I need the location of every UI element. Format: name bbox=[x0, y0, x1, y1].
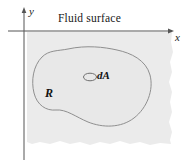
y-axis-arrowhead bbox=[22, 7, 27, 13]
region-R-label: R bbox=[45, 87, 53, 99]
fluid-surface-figure: Fluid surface y x R dA bbox=[0, 0, 185, 166]
dA-element-ellipse bbox=[84, 73, 97, 81]
x-axis-label: x bbox=[175, 32, 180, 43]
y-axis-label: y bbox=[29, 6, 34, 17]
fluid-surface-caption: Fluid surface bbox=[58, 13, 121, 25]
dA-label: dA bbox=[97, 70, 110, 81]
figure-canvas bbox=[0, 0, 185, 166]
